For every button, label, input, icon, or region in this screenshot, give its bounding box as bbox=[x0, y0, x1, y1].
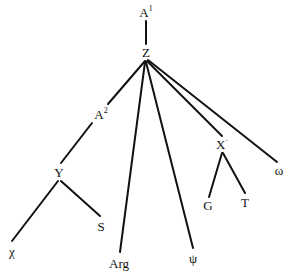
node-t-label: T bbox=[241, 195, 249, 210]
node-psi-label: ψ bbox=[189, 251, 197, 266]
node-a2-sup: 2 bbox=[104, 106, 108, 115]
node-a1-label: A bbox=[139, 5, 148, 20]
node-psi: ψ bbox=[189, 252, 197, 265]
node-z-label: Z bbox=[142, 45, 150, 60]
node-x-label: X bbox=[216, 137, 225, 152]
edge-z-arg bbox=[120, 62, 145, 252]
node-g-label: G bbox=[203, 198, 212, 213]
node-s: S bbox=[97, 220, 104, 233]
node-a1-sup: 1 bbox=[149, 4, 153, 13]
node-x-sup: · bbox=[225, 136, 228, 145]
node-a2-label: A bbox=[94, 107, 103, 122]
node-arg: Arg bbox=[109, 257, 129, 270]
node-t: T bbox=[241, 196, 249, 209]
node-g: G bbox=[203, 199, 212, 212]
node-chi: χ bbox=[9, 245, 15, 258]
edge-x-g bbox=[209, 153, 222, 197]
edge-y-s bbox=[61, 181, 100, 216]
node-z: Z bbox=[142, 46, 150, 59]
node-a2: A2 bbox=[94, 107, 107, 121]
edge-z-x bbox=[147, 61, 222, 136]
node-omega-label: ω bbox=[275, 163, 284, 178]
edge-y-chi bbox=[12, 181, 58, 241]
node-s-label: S bbox=[97, 219, 104, 234]
node-y-label: Y bbox=[54, 165, 63, 180]
node-omega: ω bbox=[275, 164, 284, 177]
node-arg-label: Arg bbox=[109, 256, 129, 271]
node-a1: A1 bbox=[139, 5, 152, 19]
node-y: Y bbox=[54, 166, 63, 179]
tree-edges bbox=[0, 0, 287, 272]
edge-a2-y bbox=[61, 123, 92, 163]
node-x: X· bbox=[216, 137, 228, 151]
edge-x-t bbox=[223, 153, 245, 193]
node-chi-label: χ bbox=[9, 244, 15, 259]
